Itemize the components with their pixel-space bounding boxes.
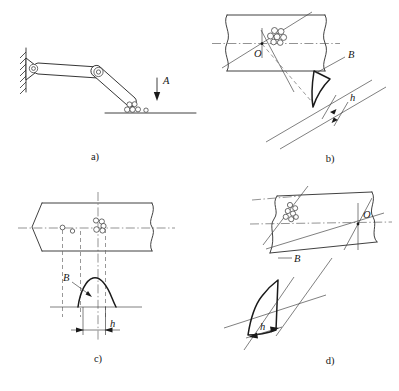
- label-a: A: [162, 75, 170, 86]
- dim-ext-b-1: [322, 95, 336, 119]
- shot-cluster-b: [268, 28, 287, 46]
- panel-d: O B h d): [224, 186, 392, 367]
- panel-c: B h c): [18, 192, 175, 365]
- panel-b: O B h b): [212, 12, 386, 165]
- dim-line-b-upper: [280, 87, 386, 149]
- panel-a: A a): [20, 48, 196, 163]
- dim-ext-b-2: [334, 102, 348, 126]
- label-o-b: O: [254, 48, 262, 59]
- label-b: B: [348, 49, 355, 60]
- caption-a: a): [91, 151, 100, 163]
- region-c-curve: [78, 278, 116, 307]
- shot-cluster-c: [60, 218, 106, 233]
- label-h-c: h: [110, 318, 115, 329]
- profile-baseline-d: [224, 295, 326, 328]
- label-o-d: O: [363, 209, 371, 220]
- region-b-shape: [312, 71, 330, 107]
- dim-rail-d-2: [276, 258, 332, 336]
- point-o-marker-b: [261, 42, 264, 45]
- caption-b: b): [326, 153, 335, 165]
- leader-line-b: [316, 57, 345, 73]
- caption-c: c): [94, 353, 103, 365]
- leader-arrow-c: [86, 291, 93, 297]
- figure-svg: A a) O B: [0, 0, 399, 391]
- caption-d: d): [326, 355, 335, 367]
- band-d-incline-centerline: [252, 196, 300, 200]
- dim-arrow-d-2: [270, 327, 279, 333]
- shot-cluster-d: [283, 202, 298, 221]
- diagonal-line-b-1: [222, 12, 312, 68]
- band-d-centerline: [250, 222, 392, 224]
- dashed-ray-b: [262, 44, 312, 102]
- wall-hatching: [20, 52, 26, 94]
- arrow-a-head: [154, 92, 160, 101]
- label-b-d: B: [294, 253, 301, 264]
- label-h-d: h: [260, 321, 265, 332]
- pivot-joint-fixed-center: [32, 67, 36, 71]
- dim-arrow-b-1: [330, 109, 337, 115]
- band-c: [32, 203, 153, 251]
- label-b-c: B: [63, 272, 70, 283]
- point-o-marker-d: [357, 223, 360, 226]
- pivot-joint-middle-center: [96, 70, 100, 74]
- shot-cluster-a: [125, 102, 149, 113]
- technical-figure: A a) O B: [0, 0, 399, 391]
- label-h-b: h: [350, 92, 355, 103]
- dim-line-b-lower: [266, 80, 372, 142]
